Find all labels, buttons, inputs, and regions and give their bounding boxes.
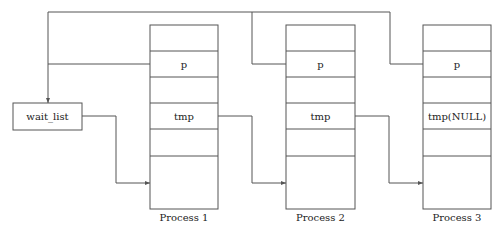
wait-list-node: wait_list [13, 103, 82, 130]
next-links [82, 116, 423, 183]
field-p: p [454, 59, 460, 70]
diagram-canvas: wait_list p tmp Process 1 p tmp Process … [0, 0, 500, 232]
p-back-links [48, 12, 423, 103]
field-tmp-null: tmp(NULL) [428, 111, 486, 122]
process-1-node: p tmp Process 1 [150, 25, 218, 223]
p3-link-line [390, 12, 423, 64]
process-2-label: Process 2 [296, 212, 345, 223]
wait-list-label: wait_list [26, 111, 68, 123]
field-p: p [181, 59, 187, 70]
process-2-to-process-3-arrow [355, 116, 423, 183]
process-2-node: p tmp Process 2 [286, 25, 355, 223]
process-3-node: p tmp(NULL) Process 3 [423, 25, 491, 223]
wait-list-to-process-1-arrow [82, 116, 150, 183]
process-1-to-process-2-arrow [218, 116, 286, 183]
field-tmp: tmp [174, 111, 194, 122]
field-tmp: tmp [311, 111, 331, 122]
process-3-label: Process 3 [433, 212, 482, 223]
field-p: p [317, 59, 323, 70]
process-1-label: Process 1 [160, 212, 209, 223]
p2-link-line [252, 12, 286, 64]
